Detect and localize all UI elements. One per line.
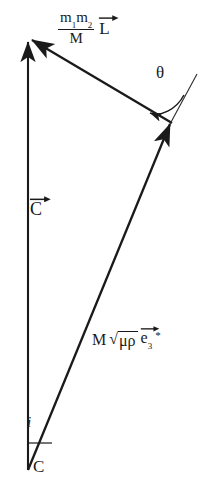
spin-prefactor: M (92, 332, 106, 348)
label-inclination-angle: i (27, 415, 31, 430)
radical-sign-icon: √ (109, 331, 118, 349)
vector-C-symbol: C (30, 200, 42, 218)
vector-diagram-figure: m1m2 M L θ C M √ μρ (0, 0, 205, 490)
e3-subscript: 3 (148, 341, 153, 351)
theta-arc (150, 95, 184, 114)
radicand: μρ (118, 331, 138, 349)
reference-extension-line (170, 74, 197, 124)
label-orbital-angular-momentum: m1m2 M L (58, 10, 110, 46)
vector-L-symbol: L (99, 20, 109, 37)
square-root-group: √ μρ (109, 331, 137, 349)
fraction-m1m2-over-M: m1m2 M (58, 10, 94, 46)
label-total-angular-momentum: C (30, 200, 42, 218)
vector-e3-symbol: e3 (141, 330, 153, 349)
vector-L-line (32, 40, 172, 123)
fraction-numerator: m1m2 (58, 10, 94, 29)
vector-e3-line (28, 124, 170, 470)
label-c-axis: C (33, 458, 44, 475)
label-theta-angle: θ (156, 64, 164, 81)
label-spin-vector: M √ μρ e3 * (92, 330, 161, 349)
star-superscript: * (155, 330, 161, 341)
fraction-denominator: M (68, 30, 85, 46)
